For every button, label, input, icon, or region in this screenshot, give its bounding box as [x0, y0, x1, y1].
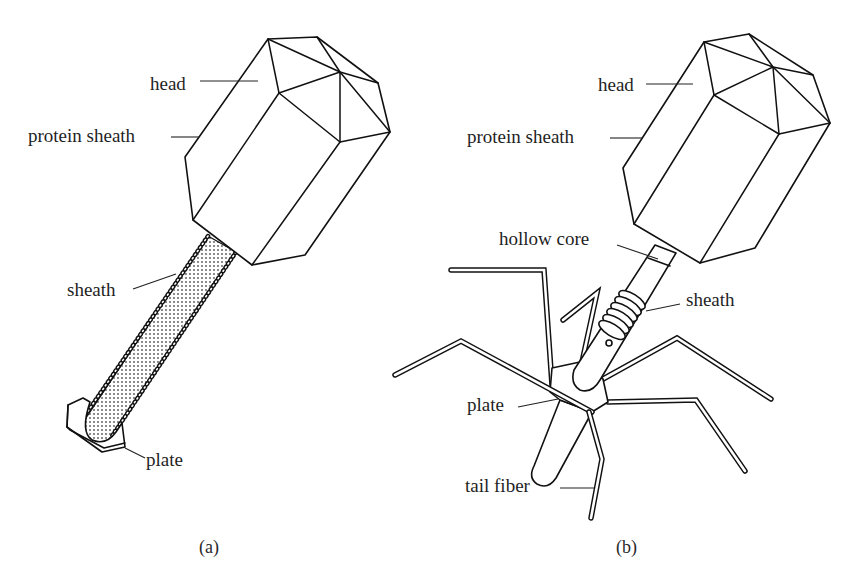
label-tail-fiber-b: tail fiber [465, 475, 531, 496]
label-protein-sheath-a: protein sheath [28, 125, 136, 146]
bacteriophage-diagram: head protein sheath sheath plate (a) [0, 0, 860, 586]
caption-b: (b) [616, 537, 637, 558]
label-sheath-a: sheath [67, 279, 116, 300]
panel-a: head protein sheath sheath plate (a) [28, 37, 390, 558]
label-head-b: head [598, 74, 634, 95]
label-protein-sheath-b: protein sheath [467, 126, 575, 147]
label-plate-b: plate [467, 394, 504, 415]
leader-plate-a [125, 448, 145, 458]
panel-b: head protein sheath hollow core sheath p… [395, 34, 830, 558]
label-sheath-b: sheath [686, 289, 735, 310]
leader-plate-b [518, 399, 558, 407]
panel-b-head [623, 34, 830, 263]
label-head-a: head [150, 73, 186, 94]
label-plate-a: plate [146, 449, 183, 470]
label-hollow-core-b: hollow core [499, 228, 589, 249]
leader-sheath-b [646, 304, 680, 311]
caption-a: (a) [199, 537, 219, 558]
panel-a-head [185, 37, 390, 265]
panel-b-core-lower [532, 400, 592, 486]
leader-sheath-a [133, 274, 176, 289]
panel-a-tail [84, 236, 236, 442]
